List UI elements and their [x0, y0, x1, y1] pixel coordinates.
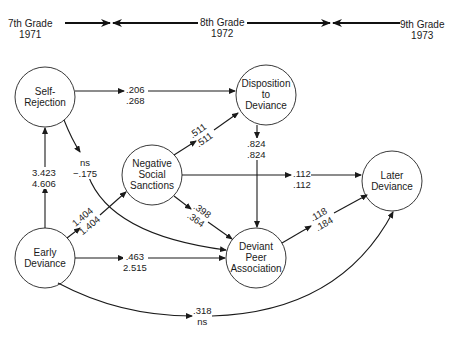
coef-ed-dpa-top: .463	[123, 251, 147, 262]
coef-ed-sr: 3.423 4.606	[32, 167, 56, 189]
deviant-peer-line3: Association	[221, 263, 291, 274]
coef-nss-ld-bottom: .112	[293, 179, 311, 190]
coef-sr-dpa-bottom: −.175	[73, 168, 97, 179]
grade-8-label: 8th Grade 1972	[198, 17, 246, 39]
coef-nss-ld-top: .112	[293, 168, 311, 179]
path-ed-nss-b	[100, 192, 126, 215]
grade-8-year: 1972	[200, 28, 244, 39]
path-sr-dpa-a	[64, 120, 80, 152]
path-dpa-ld-b	[334, 195, 367, 213]
coef-sr-dpa-top: ns	[73, 157, 97, 168]
self-rejection-label: Self- Rejection	[10, 86, 80, 108]
self-rejection-line1: Self-	[10, 86, 80, 97]
coef-disp-dpa-bottom: .824	[247, 149, 266, 160]
path-nss-dpa-b	[208, 222, 232, 239]
deviant-peer-label: Deviant Peer Association	[221, 241, 291, 274]
negative-sanctions-label: Negative Social Sanctions	[117, 158, 187, 191]
coef-ed-sr-top: 3.423	[32, 167, 56, 178]
grade-9-year: 1973	[400, 30, 444, 41]
grade-9-label: 9th Grade 1973	[400, 19, 444, 41]
path-nss-disp-b	[214, 113, 238, 130]
coef-ed-dpa: .463 2.515	[123, 251, 147, 273]
later-deviance-label: Later Deviance	[357, 170, 427, 192]
coef-sr-disp-top: .206	[126, 84, 145, 95]
path-ed-ld-a	[58, 283, 192, 316]
coef-sr-disp: .206 .268	[126, 84, 145, 106]
grade-9-text: 9th Grade	[400, 19, 444, 30]
grade-8-text: 8th Grade	[200, 17, 244, 28]
path-nss-dpa-a	[174, 196, 191, 209]
early-deviance-label: Early Deviance	[10, 247, 80, 269]
later-deviance-line2: Deviance	[357, 181, 427, 192]
path-nss-disp-a	[174, 141, 196, 155]
negative-sanctions-line1: Negative	[117, 158, 187, 169]
disposition-line2: to	[231, 89, 301, 100]
coef-ed-ld-top: .318	[193, 305, 212, 316]
coef-ed-ld-bottom: ns	[193, 316, 212, 327]
coef-sr-dpa: ns −.175	[73, 157, 97, 179]
early-deviance-line2: Deviance	[10, 258, 80, 269]
disposition-line1: Disposition	[231, 78, 301, 89]
grade-7-label: 7th Grade 1971	[8, 18, 52, 40]
coef-nss-ld: .112 .112	[293, 168, 311, 190]
disposition-line3: Deviance	[231, 100, 301, 111]
self-rejection-line2: Rejection	[10, 97, 80, 108]
coef-disp-dpa: .824 .824	[247, 138, 266, 160]
coef-ed-ld: .318 ns	[193, 305, 212, 327]
negative-sanctions-line2: Social	[117, 169, 187, 180]
grade-7-text: 7th Grade	[8, 18, 52, 29]
coef-ed-dpa-bottom: 2.515	[123, 262, 147, 273]
deviant-peer-line1: Deviant	[221, 241, 291, 252]
early-deviance-line1: Early	[10, 247, 80, 258]
deviant-peer-line2: Peer	[221, 252, 291, 263]
negative-sanctions-line3: Sanctions	[117, 180, 187, 191]
grade-7-year: 1971	[8, 29, 52, 40]
coef-sr-disp-bottom: .268	[126, 95, 145, 106]
path-diagram	[0, 0, 454, 338]
disposition-label: Disposition to Deviance	[231, 78, 301, 111]
later-deviance-line1: Later	[357, 170, 427, 181]
coef-ed-sr-bottom: 4.606	[32, 178, 56, 189]
coef-disp-dpa-top: .824	[247, 138, 266, 149]
